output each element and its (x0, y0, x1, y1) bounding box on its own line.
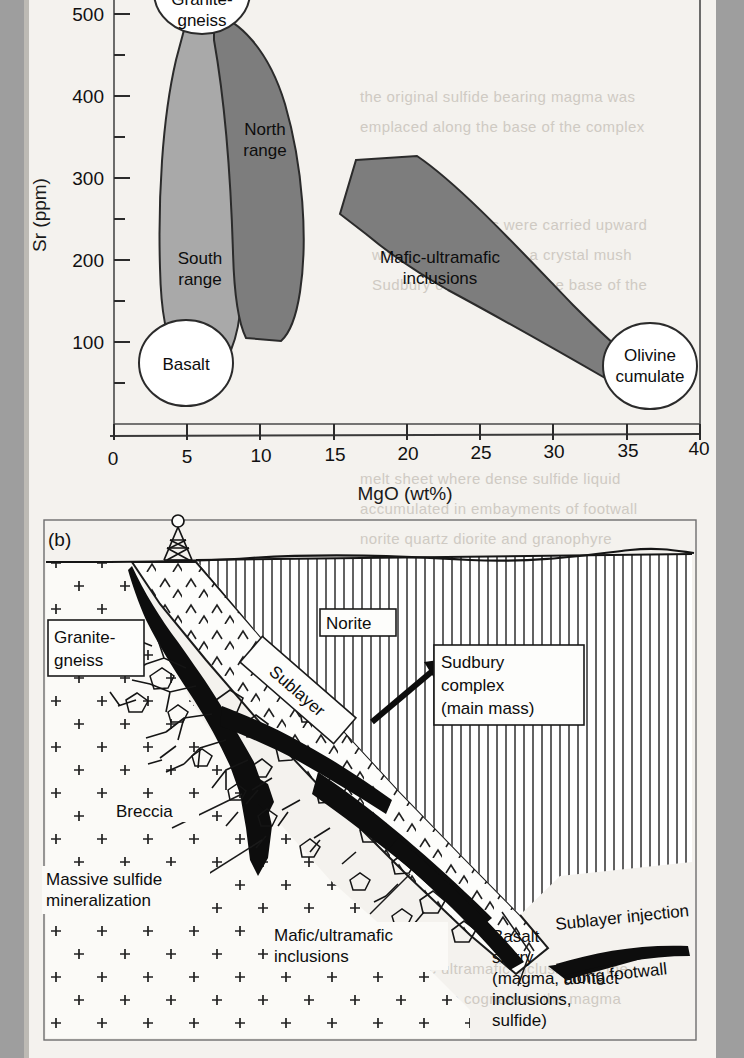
label-massive-sulfide-line1: Massive sulfide (46, 870, 162, 889)
label-mafic-ultramafic-line1: Mafic/ultramafic (274, 926, 394, 945)
y-axis-ticks (114, 14, 130, 383)
x-tick-label: 0 (108, 448, 119, 469)
label-granite-gneiss-line1: Granite- (54, 628, 115, 647)
leader-mafic-ultramafic (370, 874, 410, 914)
x-tick-label: 15 (324, 444, 345, 465)
x-tick-label: 5 (182, 446, 193, 467)
marker-label-granite-gneiss-line2: gneiss (177, 11, 226, 30)
y-tick-label: 400 (72, 86, 104, 107)
label-mafic-ultramafic-line2: inclusions (274, 947, 349, 966)
x-tick-label: 40 (688, 438, 709, 459)
y-tick-label: 100 (72, 332, 104, 353)
marker-label-olivine-cumulate-line1: Olivine (624, 346, 676, 365)
x-axis-ticks (114, 424, 700, 440)
figure-sudbury: 500 400 300 200 100 Sr (ppm) 0 5 10 15 2… (0, 0, 744, 1058)
y-tick-label: 300 (72, 168, 104, 189)
field-mafic-ultramafic-inclusions (340, 156, 640, 382)
field-label-mafic-line2: inclusions (403, 269, 478, 288)
x-axis-title: MgO (wt%) (358, 483, 453, 504)
x-axis-line (110, 434, 700, 436)
label-massive-sulfide-line2: mineralization (46, 891, 151, 910)
label-granite-gneiss-line2: gneiss (54, 651, 103, 670)
field-label-north-range-line1: North (244, 120, 286, 139)
label-breccia-text: Breccia (116, 802, 173, 821)
label-box-norite: Norite (320, 609, 396, 636)
label-basalt-slurry-line5: sulfide) (492, 1011, 547, 1030)
x-tick-label: 20 (397, 443, 418, 464)
label-breccia: Breccia (113, 798, 199, 822)
label-box-granite-gneiss: Granite- gneiss (48, 620, 144, 676)
label-massive-sulfide: Massive sulfide mineralization (42, 866, 210, 914)
label-sublayer-injection: Sublayer injection along footwall (554, 901, 689, 989)
marker-label-granite-gneiss-line1: Granite- (171, 0, 232, 9)
label-sudbury-complex-line1: Sudbury (441, 653, 505, 672)
field-label-south-range-line2: range (178, 270, 221, 289)
x-tick-label: 10 (250, 445, 271, 466)
label-sudbury-complex-line3: (main mass) (441, 699, 535, 718)
panel-b-cross-section: (b) (42, 515, 696, 1040)
y-tick-labels: 500 400 300 200 100 (72, 4, 104, 353)
marker-basalt: Basalt (139, 320, 233, 406)
label-mafic-ultramafic: Mafic/ultramafic inclusions (270, 922, 448, 970)
marker-olivine-cumulate: Olivine cumulate (603, 323, 697, 409)
field-label-mafic-line1: Mafic-ultramafic (380, 248, 500, 267)
headframe-icon (164, 515, 192, 560)
x-tick-label: 35 (617, 440, 638, 461)
label-basalt-slurry-line2: slurry (492, 948, 534, 967)
marker-label-basalt: Basalt (162, 355, 210, 374)
label-sudbury-complex-line2: complex (441, 676, 505, 695)
y-tick-label: 200 (72, 250, 104, 271)
y-axis-title: Sr (ppm) (29, 178, 50, 252)
field-label-south-range-line1: South (178, 249, 222, 268)
panel-b-id: (b) (48, 529, 71, 550)
label-basalt-slurry-line4: inclusions, (492, 990, 571, 1009)
marker-label-olivine-cumulate-line2: cumulate (616, 367, 685, 386)
label-sublayer-injection-line1: Sublayer injection (554, 901, 689, 934)
label-box-sudbury-complex: Sudbury complex (main mass) (434, 645, 584, 725)
panel-a-scatter-chart: 500 400 300 200 100 Sr (ppm) 0 5 10 15 2… (29, 0, 710, 504)
y-tick-label: 500 (72, 4, 104, 25)
x-tick-label: 25 (470, 442, 491, 463)
label-norite: Norite (326, 614, 371, 633)
x-tick-labels: 0 5 10 15 20 25 30 35 40 (108, 438, 710, 469)
field-label-north-range-line2: range (243, 141, 286, 160)
x-tick-label: 30 (543, 441, 564, 462)
label-basalt-slurry-line1: Basalt (492, 927, 540, 946)
